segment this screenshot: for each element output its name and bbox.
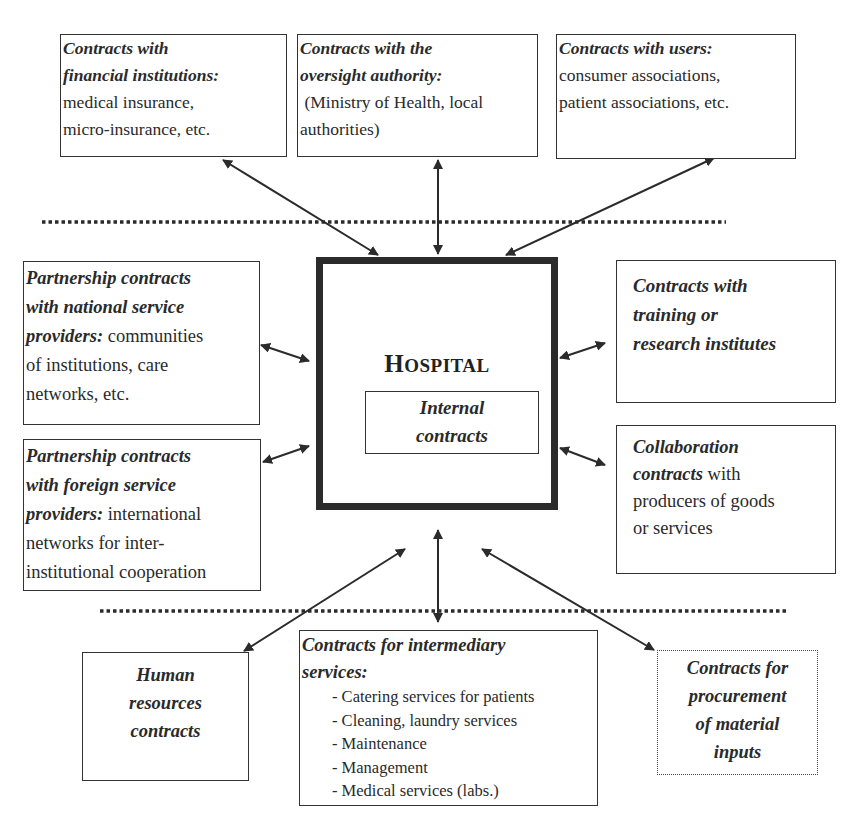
box-body: consumer associations, — [559, 62, 793, 89]
box-title: of material — [660, 710, 815, 738]
arrow-users — [506, 158, 714, 255]
box-title: financial institutions: — [63, 62, 284, 89]
box-national-partners: Partnership contracts with national serv… — [23, 261, 260, 425]
box-title: Collaboration — [633, 434, 835, 461]
list-item: - Medical services (labs.) — [302, 779, 595, 803]
box-title: Contracts with — [63, 35, 284, 62]
box-financial-institutions: Contracts with financial institutions: m… — [60, 34, 287, 157]
box-title: contracts — [633, 464, 703, 484]
box-body: international — [103, 504, 201, 524]
box-procurement: Contracts for procurement of material in… — [657, 650, 818, 775]
box-title: Contracts with users: — [559, 35, 793, 62]
list-item: - Maintenance — [302, 732, 595, 756]
box-body: medical insurance, — [63, 89, 284, 116]
box-oversight-authority: Contracts with the oversight authority: … — [297, 34, 538, 157]
box-body: communities — [103, 326, 203, 346]
box-body: or services — [633, 515, 835, 542]
hospital-title: HOSPITAL — [323, 350, 551, 378]
box-title: providers: — [26, 504, 103, 524]
box-title: oversight authority: — [300, 62, 535, 89]
box-training-research: Contracts with training or research inst… — [616, 260, 836, 403]
box-body: networks, etc. — [26, 380, 257, 409]
box-title: with foreign service — [26, 471, 258, 500]
box-title: inputs — [660, 738, 815, 766]
hospital-title-initial: H — [384, 350, 404, 377]
hospital-box: HOSPITAL Internal contracts — [316, 257, 558, 510]
box-intermediary-services: Contracts for intermediary services: - C… — [299, 630, 598, 806]
box-title: Contracts for intermediary — [302, 631, 595, 659]
box-title: research institutes — [633, 329, 835, 358]
box-title: Partnership contracts — [26, 442, 258, 471]
box-body: institutional cooperation — [26, 558, 258, 587]
arrow-training — [560, 343, 605, 358]
box-collaboration: Collaboration contracts with producers o… — [616, 425, 836, 574]
box-title: Partnership contracts — [26, 264, 257, 293]
list-item: - Management — [302, 756, 595, 780]
internal-line: contracts — [366, 422, 538, 450]
box-title: Contracts with the — [300, 35, 535, 62]
box-title: Contracts with — [633, 271, 835, 300]
box-body: with — [703, 464, 741, 484]
box-title: Contracts for — [660, 654, 815, 682]
box-title: providers: — [26, 326, 103, 346]
box-body: authorities) — [300, 116, 535, 143]
internal-contracts-box: Internal contracts — [365, 391, 539, 454]
box-body: micro-insurance, etc. — [63, 116, 284, 143]
box-body: networks for inter- — [26, 529, 258, 558]
arrow-national — [261, 345, 309, 361]
box-title: services: — [302, 659, 595, 685]
box-title: training or — [633, 300, 835, 329]
box-title: procurement — [660, 682, 815, 710]
arrow-foreign — [263, 446, 309, 462]
box-foreign-partners: Partnership contracts with foreign servi… — [23, 439, 261, 591]
box-title: contracts — [85, 717, 246, 745]
box-users: Contracts with users: consumer associati… — [556, 34, 796, 159]
box-title: Human — [85, 661, 246, 689]
hospital-title-rest: OSPITAL — [404, 355, 490, 376]
arrow-collaboration — [560, 448, 605, 465]
box-title: with national service — [26, 293, 257, 322]
box-body: (Ministry of Health, local — [300, 89, 535, 116]
list-item: - Catering services for patients — [302, 685, 595, 709]
box-body: producers of goods — [633, 488, 835, 515]
list-item: - Cleaning, laundry services — [302, 709, 595, 733]
box-title: resources — [85, 689, 246, 717]
internal-line: Internal — [366, 394, 538, 422]
box-human-resources: Human resources contracts — [82, 652, 249, 781]
box-body: of institutions, care — [26, 351, 257, 380]
box-body: patient associations, etc. — [559, 89, 793, 116]
arrow-financial — [223, 160, 378, 255]
